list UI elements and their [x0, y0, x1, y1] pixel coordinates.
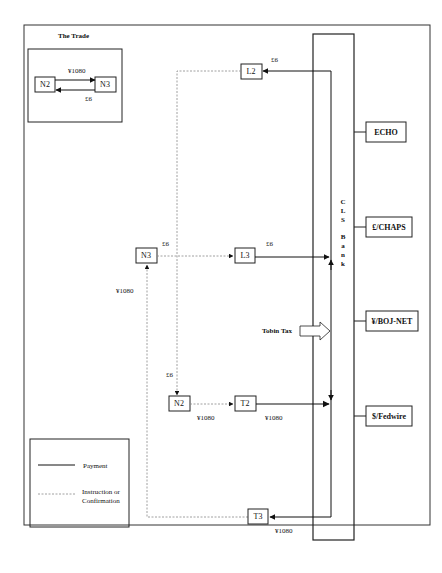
node-n2-label: N2 [174, 399, 184, 408]
svg-text:S: S [341, 216, 345, 224]
instruction-t3-to-n3 [147, 265, 248, 517]
cls-bank-box [313, 34, 354, 540]
cls-internal-payment-line [312, 71, 331, 517]
svg-text:L: L [341, 207, 346, 215]
trade-title: The Trade [58, 32, 89, 40]
cls-bank-label: C L S B a n k [340, 198, 345, 268]
svg-text:ECHO: ECHO [374, 128, 398, 137]
svg-text:k: k [341, 260, 345, 268]
trade-node-n2-label: N2 [40, 80, 50, 89]
amount-l2-in: £6 [271, 56, 279, 64]
amount-t2-out: ¥1080 [265, 414, 283, 422]
svg-text:£/CHAPS: £/CHAPS [372, 223, 406, 232]
node-t2-label: T2 [241, 399, 250, 408]
trade-inset: The Trade N2 N3 ¥1080 £6 [28, 32, 122, 122]
amount-n3-out: £6 [162, 240, 170, 248]
node-t3-label: T3 [254, 512, 263, 521]
tobin-tax-arrow-icon [300, 322, 330, 340]
node-l2-label: L2 [247, 67, 256, 76]
legend-payment: Payment [83, 462, 108, 470]
svg-text:a: a [341, 242, 345, 250]
svg-text:¥/BOJ-NET: ¥/BOJ-NET [372, 317, 414, 326]
legend: Payment Instruction or Confirmation [30, 439, 129, 527]
node-n3-label: N3 [141, 251, 151, 260]
trade-top-amount: ¥1080 [68, 67, 86, 75]
amount-t3-in: ¥1080 [275, 527, 293, 535]
trade-bottom-amount: £6 [85, 95, 93, 103]
system-fedwire: $/Fedwire [354, 406, 412, 426]
system-echo: ECHO [354, 122, 406, 142]
legend-instruction-1: Instruction or [82, 488, 121, 496]
node-l3-label: L3 [241, 251, 250, 260]
amount-l3-out: £6 [266, 240, 274, 248]
trade-node-n3-label: N3 [100, 80, 110, 89]
amount-n2-out: ¥1080 [197, 414, 215, 422]
instruction-l2-to-n2 [177, 71, 241, 395]
svg-text:n: n [341, 251, 345, 259]
amount-n2-in: £6 [166, 371, 174, 379]
svg-text:C: C [340, 198, 345, 206]
cls-settlement-diagram: The Trade N2 N3 ¥1080 £6 C L S B a n k L… [0, 0, 442, 573]
svg-text:$/Fedwire: $/Fedwire [372, 412, 407, 421]
system-chaps: £/CHAPS [354, 217, 412, 237]
amount-n3-in: ¥1080 [116, 287, 134, 295]
tobin-tax-label: Tobin Tax [262, 327, 292, 335]
legend-instruction-2: Confirmation [82, 497, 120, 505]
system-boj-net: ¥/BOJ-NET [354, 311, 418, 331]
svg-text:B: B [341, 233, 346, 241]
